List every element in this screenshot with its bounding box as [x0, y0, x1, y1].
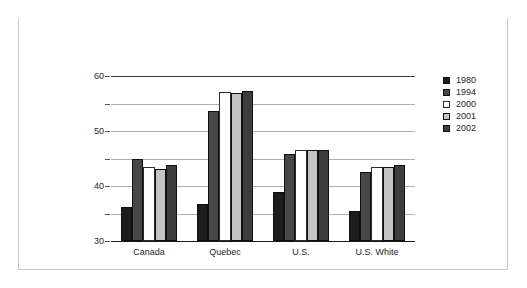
y-axis-tick-mark-10: [105, 214, 110, 215]
y-axis-tick-label-60: 60: [94, 71, 104, 81]
bar-2002-uswhite[interactable]: [394, 165, 405, 241]
bar-2000-uswhite[interactable]: [371, 167, 382, 241]
y-axis-tick-mark-30: [105, 159, 110, 160]
legend-item-label: 1994: [456, 88, 476, 97]
y-axis-tick-mark-60: [105, 76, 110, 77]
x-axis-category-label: Canada: [133, 247, 165, 257]
legend-item-2000[interactable]: 2000: [443, 98, 509, 110]
legend-item-label: 2002: [456, 124, 476, 133]
bar-1994-quebec[interactable]: [208, 111, 219, 241]
legend-item-2001[interactable]: 2001: [443, 110, 509, 122]
legend-item-label: 1980: [456, 76, 476, 85]
bar-2000-quebec[interactable]: [219, 92, 230, 241]
bar-2001-uswhite[interactable]: [383, 167, 394, 241]
bar-2000-us[interactable]: [295, 150, 306, 241]
legend-swatch-icon: [443, 89, 450, 96]
bar-group: U.S.: [263, 76, 339, 241]
gridline-0: 0: [111, 241, 415, 242]
y-axis-tick-mark-40: [105, 131, 110, 132]
x-axis-category-label: Quebec: [209, 247, 241, 257]
legend-swatch-icon: [443, 77, 450, 84]
legend-swatch-icon: [443, 113, 450, 120]
chart-legend: 19801994200020012002: [443, 74, 509, 134]
bar-1980-quebec[interactable]: [197, 204, 208, 241]
legend-swatch-icon: [443, 125, 450, 132]
y-axis-tick-mark-50: [105, 104, 110, 105]
bar-1994-canada[interactable]: [132, 159, 143, 242]
legend-item-1980[interactable]: 1980: [443, 74, 509, 86]
bar-groups: CanadaQuebecU.S.U.S. White: [111, 76, 415, 241]
bar-2001-us[interactable]: [307, 150, 318, 241]
plot-area: 0102030405060 CanadaQuebecU.S.U.S. White: [111, 76, 415, 241]
legend-item-2002[interactable]: 2002: [443, 122, 509, 134]
bar-1980-canada[interactable]: [121, 207, 132, 241]
y-axis-tick-mark-20: [105, 186, 110, 187]
bar-group: U.S. White: [339, 76, 415, 241]
bar-group: Quebec: [187, 76, 263, 241]
bar-1994-uswhite[interactable]: [360, 172, 371, 241]
bar-group: Canada: [111, 76, 187, 241]
x-axis-category-label: U.S.: [292, 247, 310, 257]
bar-2002-us[interactable]: [318, 150, 329, 241]
legend-item-1994[interactable]: 1994: [443, 86, 509, 98]
legend-item-label: 2000: [456, 100, 476, 109]
bar-1980-us[interactable]: [273, 192, 284, 242]
bar-2002-quebec[interactable]: [242, 91, 253, 241]
y-axis-tick-label-50: 50: [94, 126, 104, 136]
bar-2000-canada[interactable]: [143, 167, 154, 241]
bar-2001-canada[interactable]: [155, 169, 166, 241]
x-axis-category-label: U.S. White: [355, 247, 398, 257]
y-axis-tick-label-30: 30: [94, 236, 104, 246]
bar-chart: 0102030405060 CanadaQuebecU.S.U.S. White…: [18, 43, 508, 270]
y-axis-tick-mark-0: [105, 241, 110, 242]
legend-item-label: 2001: [456, 112, 476, 121]
bar-2001-quebec[interactable]: [231, 93, 242, 241]
bar-1980-uswhite[interactable]: [349, 211, 360, 241]
y-axis-tick-label-40: 40: [94, 181, 104, 191]
bar-2002-canada[interactable]: [166, 165, 177, 241]
bar-1994-us[interactable]: [284, 154, 295, 241]
legend-swatch-icon: [443, 101, 450, 108]
